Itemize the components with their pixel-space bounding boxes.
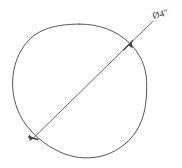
technical-drawing-canvas: Ø4" bbox=[0, 0, 182, 168]
drawing-svg bbox=[0, 0, 182, 168]
leader-line bbox=[128, 21, 153, 45]
diameter-dimension-line bbox=[33, 45, 128, 138]
